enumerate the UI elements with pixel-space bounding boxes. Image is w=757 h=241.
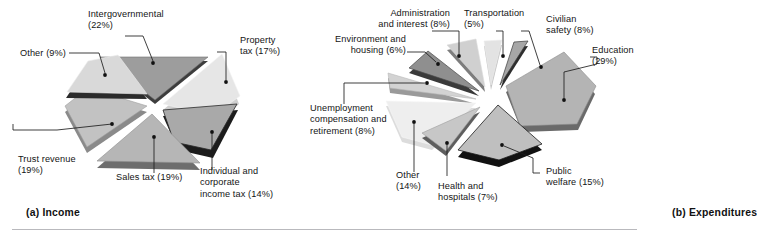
label-individual-corporate-income-tax: Individual and corporate income tax (14%… (200, 166, 310, 200)
label-civilian-safety-line1: Civilian (546, 14, 618, 25)
label-other-income: Other (9%) (20, 48, 66, 59)
label-unemployment-line2: compensation and (310, 114, 406, 125)
label-civilian-safety-line2: safety (8%) (546, 25, 618, 36)
label-trust-revenue: Trust revenue (19%) (18, 154, 110, 177)
label-intergovernmental: Intergovernmental (22%) (88, 9, 208, 32)
label-property-tax: Property tax (17%) (240, 35, 314, 58)
label-environment-line1: Environment and (318, 34, 406, 45)
label-public-welfare-line2: welfare (15%) (546, 177, 638, 188)
label-sales-tax: Sales tax (19%) (116, 172, 182, 183)
label-education: Education (29%) (592, 45, 648, 68)
label-transportation-line1: Transportation (464, 8, 548, 19)
label-education-line1: Education (592, 45, 648, 56)
label-public-welfare-line1: Public (546, 166, 638, 177)
label-unemployment-line3: retirement (8%) (310, 126, 406, 137)
label-education-line2: (29%) (592, 56, 648, 67)
label-environment-and-housing: Environment and housing (6%) (318, 34, 406, 57)
label-administration-line2: and interest (8%) (340, 19, 450, 30)
caption-expenditures: (b) Expenditures (672, 207, 757, 218)
label-unemployment-line1: Unemployment (310, 103, 406, 114)
label-health-and-hospitals: Health and hospitals (7%) (438, 181, 524, 204)
label-intergovernmental-line1: Intergovernmental (88, 9, 208, 20)
label-administration-and-interest: Administration and interest (8%) (340, 8, 450, 31)
label-other-expend-line1: Other (396, 170, 438, 181)
pie-slice-transportation[interactable] (484, 40, 502, 90)
label-environment-line2: housing (6%) (318, 45, 406, 56)
label-individual-line2: corporate (200, 177, 310, 188)
label-administration-line1: Administration (340, 8, 450, 19)
label-transportation: Transportation (5%) (464, 8, 548, 31)
label-health-line2: hospitals (7%) (438, 192, 524, 203)
label-trust-revenue-line2: (19%) (18, 165, 110, 176)
label-transportation-line2: (5%) (464, 19, 548, 30)
label-individual-line1: Individual and (200, 166, 310, 177)
chart-panel-expenditures: Administration and interest (8%) Transpo… (324, 0, 647, 241)
chart-panel-income: Intergovernmental (22%) Other (9%) Prope… (0, 0, 323, 241)
label-property-tax-line2: tax (17%) (240, 46, 314, 57)
label-intergovernmental-line2: (22%) (88, 20, 208, 31)
label-individual-line3: income tax (14%) (200, 189, 310, 200)
label-public-welfare: Public welfare (15%) (546, 166, 638, 189)
label-civilian-safety: Civilian safety (8%) (546, 14, 618, 37)
label-other-expend-line2: (14%) (396, 181, 438, 192)
label-other-expenditures: Other (14%) (396, 170, 438, 193)
pie-slice-education[interactable] (506, 52, 596, 132)
label-unemployment-compensation-and-retirement: Unemployment compensation and retirement… (310, 103, 406, 137)
label-property-tax-line1: Property (240, 35, 314, 46)
caption-income: (a) Income (26, 207, 80, 218)
bottom-divider (12, 229, 637, 230)
label-trust-revenue-line1: Trust revenue (18, 154, 110, 165)
label-health-line1: Health and (438, 181, 524, 192)
